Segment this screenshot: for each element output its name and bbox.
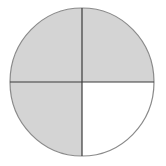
quadrant-bottom-right [82,82,154,156]
quadrant-top-left [10,8,82,82]
quadrant-top-right [82,8,154,82]
quadrant-bottom-left [10,82,82,156]
fraction-circle-diagram [0,0,166,166]
